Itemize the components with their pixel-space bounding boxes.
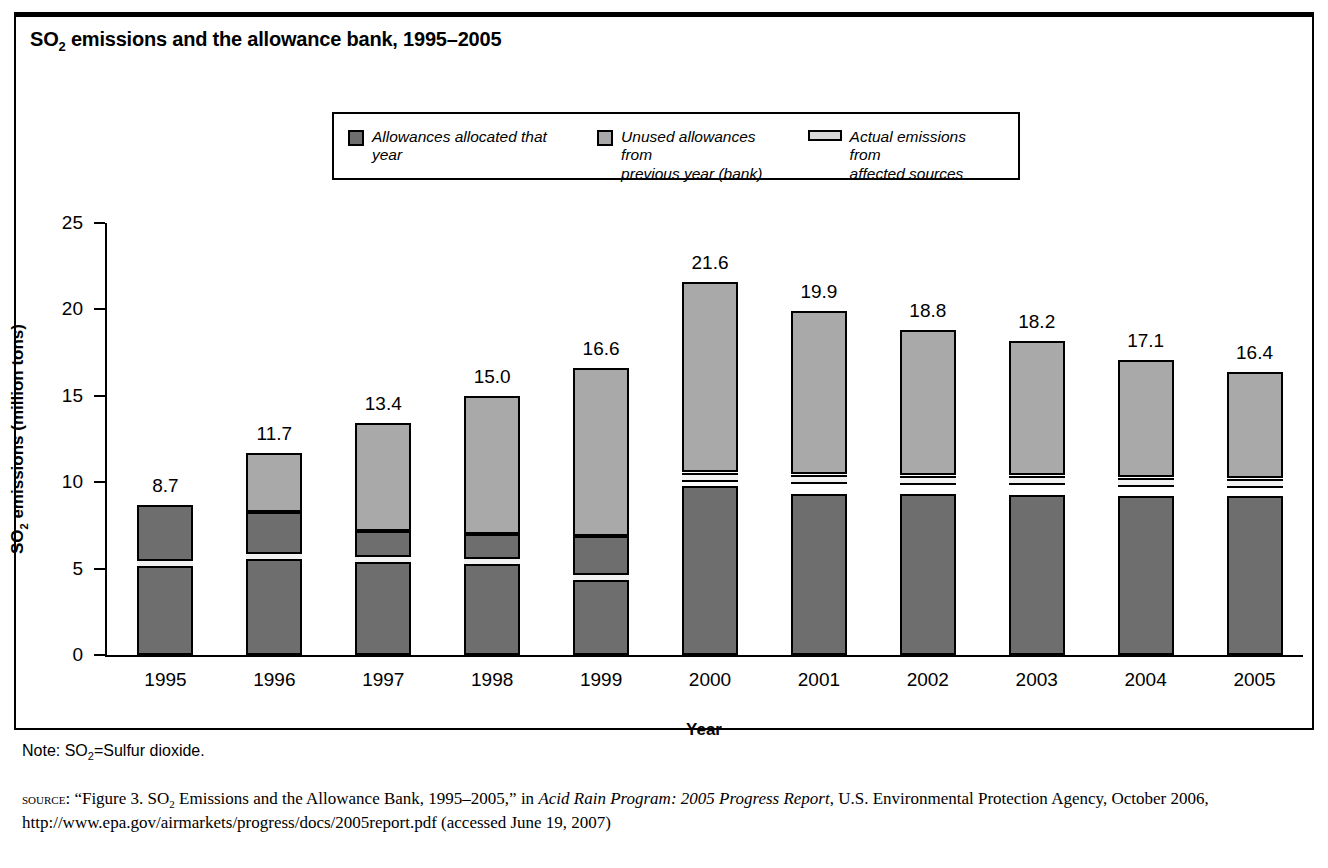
bar-group-2000[interactable]: 21.62000 (682, 223, 738, 655)
bar-segment-bank-2001 (791, 311, 847, 473)
legend-item-unused-allowances-bank: Unused allowances from previous year (ba… (597, 128, 786, 183)
x-tick-label-2004: 2004 (1124, 669, 1166, 691)
y-axis-label: SO2 emissions (million tons) (8, 324, 29, 554)
chart-legend: Allowances allocated that yearUnused all… (332, 112, 1020, 180)
bar-1996[interactable] (246, 453, 302, 655)
note-prefix: Note: SO (22, 742, 88, 759)
bar-2000[interactable] (682, 282, 738, 655)
legend-swatch-actual-emissions-icon (808, 130, 842, 141)
bar-segment-allocated-1998 (464, 534, 520, 655)
bar-value-label-2004: 17.1 (1127, 330, 1164, 352)
bar-group-2005[interactable]: 16.42005 (1227, 223, 1283, 655)
y-tick-label-20: 20 (23, 298, 83, 320)
bar-value-label-1995: 8.7 (152, 475, 178, 497)
bar-emissions-marker-1995 (137, 559, 193, 568)
source-part-1: : “Figure 3. SO (65, 789, 169, 808)
bar-segment-allocated-2000 (682, 486, 738, 655)
bar-group-1995[interactable]: 8.71995 (137, 223, 193, 655)
x-tick-label-2002: 2002 (907, 669, 949, 691)
y-axis-label-main: SO (8, 529, 27, 554)
bar-group-2004[interactable]: 17.12004 (1118, 223, 1174, 655)
y-tick-label-0: 0 (23, 644, 83, 666)
frame-top-rule (14, 12, 1314, 17)
bar-value-label-1996: 11.7 (257, 423, 293, 445)
bar-emissions-marker-1996 (246, 552, 302, 561)
y-tick-label-5: 5 (23, 558, 83, 580)
bar-2002[interactable] (900, 330, 956, 655)
bar-group-1997[interactable]: 13.41997 (355, 223, 411, 655)
bar-2003[interactable] (1009, 341, 1065, 655)
legend-label-actual-emissions: Actual emissions from affected sources (850, 128, 996, 183)
y-tick-10 (94, 481, 105, 483)
y-tick-15 (94, 395, 105, 397)
bar-group-1998[interactable]: 15.01998 (464, 223, 520, 655)
bar-segment-bank-2002 (900, 330, 956, 475)
bar-value-label-2002: 18.8 (909, 300, 946, 322)
source-publication-title: Acid Rain Program: 2005 Progress Report (538, 789, 829, 808)
x-tick-label-1997: 1997 (362, 669, 404, 691)
bar-segment-bank-1999 (573, 368, 629, 536)
bar-group-1999[interactable]: 16.61999 (573, 223, 629, 655)
bar-2004[interactable] (1118, 360, 1174, 655)
bar-value-label-2001: 19.9 (800, 281, 837, 303)
bar-1997[interactable] (355, 423, 411, 655)
x-tick-label-2000: 2000 (689, 669, 731, 691)
y-axis-label-subscript: 2 (18, 523, 30, 529)
bar-emissions-marker-1999 (573, 573, 629, 582)
bar-segment-allocated-2004 (1118, 496, 1174, 655)
y-tick-20 (94, 308, 105, 310)
y-tick-label-15: 15 (23, 385, 83, 407)
bar-segment-bank-2000 (682, 282, 738, 472)
y-tick-label-10: 10 (23, 471, 83, 493)
bar-group-2003[interactable]: 18.22003 (1009, 223, 1065, 655)
bar-segment-bank-2003 (1009, 341, 1065, 476)
bar-value-label-2000: 21.6 (692, 252, 729, 274)
bar-segment-bank-2005 (1227, 372, 1283, 478)
bar-group-2002[interactable]: 18.82002 (900, 223, 956, 655)
bar-segment-allocated-2005 (1227, 496, 1283, 655)
x-tick-label-1996: 1996 (253, 669, 295, 691)
bar-emissions-marker-2003 (1009, 476, 1065, 485)
bar-1995[interactable] (137, 505, 193, 655)
bar-segment-allocated-2003 (1009, 495, 1065, 655)
bar-value-label-1997: 13.4 (365, 393, 402, 415)
bar-value-label-2005: 16.4 (1236, 342, 1273, 364)
bar-value-label-1999: 16.6 (583, 338, 620, 360)
bar-1999[interactable] (573, 368, 629, 655)
legend-item-allowances-allocated: Allowances allocated that year (348, 128, 575, 165)
x-tick-label-1999: 1999 (580, 669, 622, 691)
legend-item-actual-emissions: Actual emissions from affected sources (808, 128, 996, 183)
bar-segment-allocated-2002 (900, 494, 956, 655)
source-label: source (22, 791, 65, 807)
x-tick-label-1995: 1995 (144, 669, 186, 691)
x-tick-label-1998: 1998 (471, 669, 513, 691)
y-axis-line (105, 223, 107, 655)
source-citation: source: “Figure 3. SO2 Emissions and the… (22, 788, 1312, 834)
bar-segment-allocated-1997 (355, 531, 411, 655)
bar-emissions-marker-2004 (1118, 478, 1174, 487)
plot-area: 0510152025 SO2 emissions (million tons) … (105, 223, 1303, 655)
y-tick-25 (94, 222, 105, 224)
y-tick-0 (94, 654, 105, 656)
bar-segment-allocated-1999 (573, 536, 629, 655)
bar-emissions-marker-2002 (900, 476, 956, 485)
x-tick-label-2003: 2003 (1016, 669, 1058, 691)
legend-swatch-allowances-allocated-icon (348, 130, 364, 146)
bar-group-2001[interactable]: 19.92001 (791, 223, 847, 655)
bar-group-1996[interactable]: 11.71996 (246, 223, 302, 655)
bar-segment-bank-1998 (464, 396, 520, 534)
bar-1998[interactable] (464, 396, 520, 655)
x-axis-line (105, 655, 1303, 657)
bar-2001[interactable] (791, 311, 847, 655)
bar-value-label-2003: 18.2 (1018, 311, 1055, 333)
title-rest: emissions and the allowance bank, 1995–2… (66, 28, 502, 50)
y-tick-label-25: 25 (23, 212, 83, 234)
x-tick-label-2001: 2001 (798, 669, 840, 691)
bar-2005[interactable] (1227, 372, 1283, 655)
bar-emissions-marker-2001 (791, 475, 847, 484)
bar-segment-bank-2004 (1118, 360, 1174, 478)
x-axis-label: Year (105, 720, 1303, 740)
title-main: SO (30, 28, 59, 50)
legend-label-unused-allowances-bank: Unused allowances from previous year (ba… (621, 128, 786, 183)
note-suffix: =Sulfur dioxide. (94, 742, 205, 759)
